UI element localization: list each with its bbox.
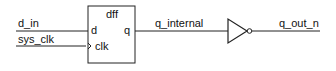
dff-title: dff xyxy=(106,9,118,20)
signal-label-q-out-n: q_out_n xyxy=(279,18,319,29)
inverter-icon xyxy=(228,19,247,43)
signal-label-q-internal: q_internal xyxy=(155,18,203,29)
signal-label-d-in: d_in xyxy=(18,18,39,29)
inverter-bubble-icon xyxy=(247,29,252,34)
port-label-clk: clk xyxy=(95,41,108,52)
port-label-q: q xyxy=(124,25,130,36)
port-label-d: d xyxy=(91,25,97,36)
signal-label-sys-clk: sys_clk xyxy=(18,34,54,45)
